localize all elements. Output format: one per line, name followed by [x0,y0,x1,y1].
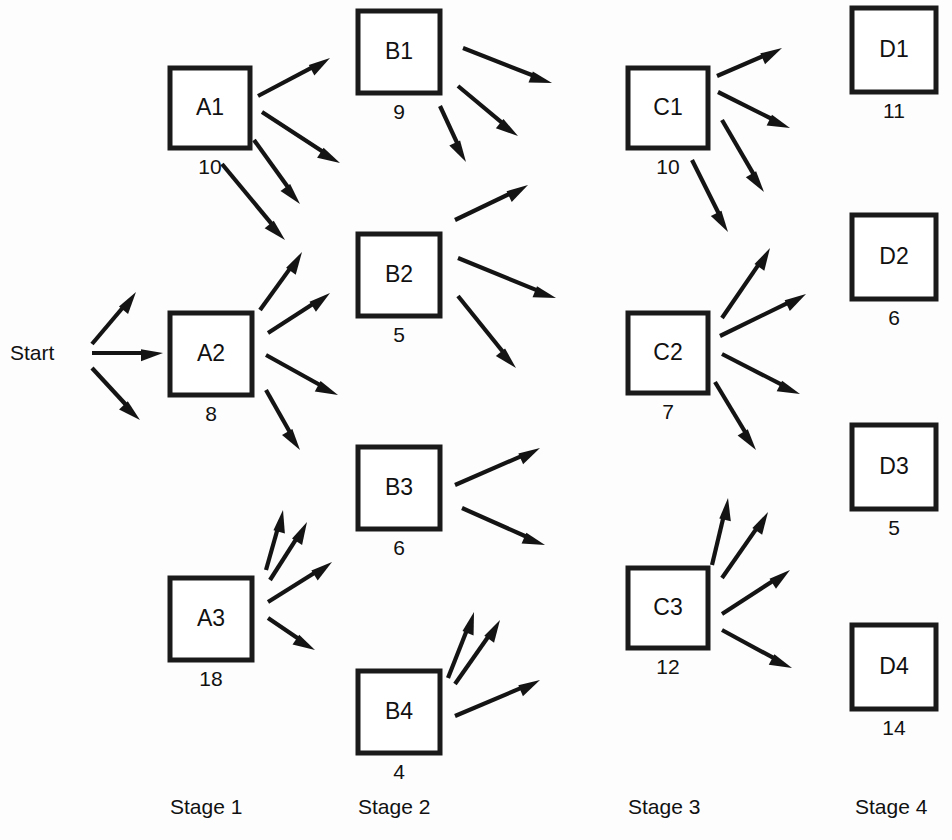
stage-label-stage2: Stage 2 [358,795,430,818]
edge-arrow [254,140,300,204]
edge-arrow [692,160,728,232]
node-value: 6 [393,536,405,559]
network-diagram-svg: A110A28A318B19B25B36B44C110C27C312D111D2… [0,0,952,840]
edge-arrow [458,258,556,298]
diagram-canvas: A110A28A318B19B25B36B44C110C27C312D111D2… [0,0,952,840]
node-label: D1 [879,36,908,62]
edge-arrow [262,112,340,163]
edge-arrow [455,448,540,485]
stage-label-stage3: Stage 3 [628,795,700,818]
node-c2[interactable]: C27 [628,313,708,423]
edge-arrow [222,164,285,240]
node-label: D4 [879,653,909,679]
edge-arrow [92,349,163,361]
edge-arrow [712,498,731,565]
edge-arrow [260,252,302,310]
node-value: 10 [198,155,221,178]
edge-arrow [92,368,140,420]
stage-label-stage4: Stage 4 [855,795,928,818]
node-value: 5 [888,516,900,539]
node-label: B3 [385,474,413,500]
edge-arrow [266,355,338,395]
node-a1[interactable]: A110 [170,68,250,178]
node-label: C2 [653,339,682,365]
node-value: 8 [205,402,217,425]
labels-layer: Start Stage 1Stage 2Stage 3Stage 4 [10,341,928,818]
node-a3[interactable]: A318 [170,578,252,690]
node-value: 4 [393,760,405,783]
node-d1[interactable]: D111 [852,8,936,122]
node-label: B1 [385,38,413,64]
node-label: A1 [196,94,224,120]
stage-label-stage1: Stage 1 [170,795,242,818]
node-value: 11 [883,99,905,122]
node-label: B2 [385,261,413,287]
edge-arrow [722,248,770,318]
node-label: C3 [653,594,682,620]
node-a2[interactable]: A28 [170,313,252,425]
node-value: 6 [888,306,900,329]
edge-arrow [715,382,756,450]
edge-arrow [92,292,136,344]
edge-arrow [448,612,474,678]
edge-arrow [722,570,790,614]
edge-arrow [718,92,790,128]
node-value: 12 [656,655,679,678]
edge-arrow [722,354,800,394]
edge-arrow [717,48,782,76]
node-value: 10 [656,155,679,178]
node-c1[interactable]: C110 [628,68,708,178]
edge-arrow [258,58,330,96]
node-b3[interactable]: B36 [358,447,440,559]
node-value: 18 [199,667,222,690]
edge-arrow [440,106,466,162]
node-label: A3 [197,605,225,631]
start-label: Start [10,341,55,364]
node-d2[interactable]: D26 [852,215,936,329]
edge-arrow [722,512,768,578]
node-b2[interactable]: B25 [358,234,440,346]
edge-arrow [455,680,540,716]
edge-arrow [455,620,500,684]
node-d3[interactable]: D35 [852,425,936,539]
node-label: D3 [879,453,908,479]
node-label: B4 [385,698,413,724]
edge-arrow [462,508,545,545]
edge-arrow [722,630,792,668]
node-label: C1 [653,94,682,120]
node-value: 7 [662,400,674,423]
edge-arrow [458,86,518,136]
node-d4[interactable]: D414 [852,625,936,739]
node-label: A2 [197,340,225,366]
node-value: 5 [393,323,405,346]
node-c3[interactable]: C312 [628,568,708,678]
node-b1[interactable]: B19 [358,11,440,123]
edge-arrow [266,390,300,450]
edge-arrow [722,120,764,192]
edge-arrow [268,293,330,333]
edge-arrow [268,618,315,650]
edge-arrow [458,296,516,368]
node-value: 14 [882,716,906,739]
nodes-layer: A110A28A318B19B25B36B44C110C27C312D111D2… [170,8,936,783]
node-value: 9 [393,100,405,123]
node-b4[interactable]: B44 [358,671,440,783]
node-label: D2 [879,243,908,269]
edge-arrow [455,185,528,220]
edge-arrow [463,48,552,83]
